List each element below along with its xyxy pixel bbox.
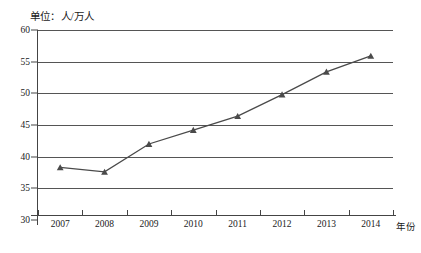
x-axis-tick-label: 2009 [139, 219, 158, 229]
x-axis-tick [393, 210, 394, 216]
x-axis-tick-label: 2014 [361, 219, 380, 229]
y-axis-tick-label: 55 [8, 57, 30, 67]
y-axis-tick [31, 220, 38, 221]
y-axis-tick [31, 61, 38, 62]
plot-area [38, 30, 393, 220]
x-axis-tick [349, 210, 350, 216]
y-axis-tick-label: 40 [8, 152, 30, 162]
x-axis-tick-label: 2007 [51, 219, 70, 229]
y-axis-tick-label: 60 [8, 25, 30, 35]
x-axis-tick-label: 2008 [95, 219, 114, 229]
line-chart: 单位：人/万人 30354045505560 年份 20072008200920… [0, 0, 421, 253]
y-axis-tick [31, 188, 38, 189]
y-axis-tick-label: 50 [8, 88, 30, 98]
y-axis-tick-label: 45 [8, 120, 30, 130]
x-axis-tick [304, 210, 305, 216]
y-axis-tick [31, 125, 38, 126]
gridline [38, 157, 393, 158]
gridline [38, 62, 393, 63]
x-axis-tick-label: 2012 [273, 219, 292, 229]
x-axis-tick [82, 210, 83, 216]
x-axis-tick-label: 2013 [317, 219, 336, 229]
y-axis-tick [31, 93, 38, 94]
y-axis-tick [31, 156, 38, 157]
x-axis-tick [216, 210, 217, 216]
x-axis-tick-label: 2011 [228, 219, 247, 229]
y-axis-tick [31, 30, 38, 31]
x-axis-title: 年份 [396, 219, 416, 233]
gridline [38, 93, 393, 94]
chart-unit-note: 单位：人/万人 [30, 8, 94, 23]
gridline [38, 125, 393, 126]
x-axis-tick-label: 2010 [184, 219, 203, 229]
x-axis-tick [127, 210, 128, 216]
y-axis-tick-label: 30 [8, 215, 30, 225]
x-axis-tick [171, 210, 172, 216]
x-axis-tick [260, 210, 261, 216]
x-axis-tick [38, 210, 39, 216]
gridline [38, 30, 393, 31]
gridline [38, 188, 393, 189]
y-axis-tick-labels: 30354045505560 [8, 0, 30, 253]
y-axis-tick-label: 35 [8, 183, 30, 193]
